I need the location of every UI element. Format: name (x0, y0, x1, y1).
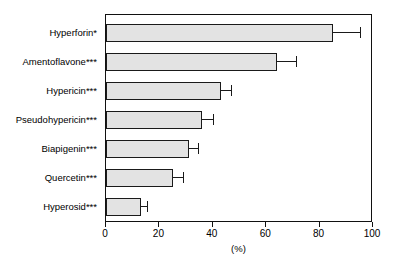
bar-row (106, 24, 371, 42)
error-cap-hyperosid (147, 201, 148, 212)
error-cap-pseudohypericin (213, 114, 214, 125)
bar-hypericin (106, 82, 221, 100)
error-bar-biapigenin (189, 148, 198, 149)
category-label: Biapigenin*** (42, 144, 97, 154)
bar-pseudohypericin (106, 111, 202, 129)
error-bar-hyperosid (141, 206, 148, 207)
x-tick-label: 20 (153, 229, 164, 239)
category-axis-labels: Hyperforin* Amentoflavone*** Hypericin**… (0, 14, 101, 222)
x-axis: (%) 020406080100 (105, 222, 372, 266)
error-bar-quercetin (173, 177, 184, 178)
error-bar-pseudohypericin (202, 119, 213, 120)
x-tick-mark (319, 222, 320, 227)
bar-row (106, 169, 371, 187)
category-label: Hypericin*** (46, 86, 97, 96)
error-cap-biapigenin (198, 143, 199, 154)
x-tick-mark (158, 222, 159, 227)
category-label: Hyperforin* (49, 28, 97, 38)
bar-row (106, 198, 371, 216)
category-label: Pseudohypericin*** (16, 115, 97, 125)
x-tick-label: 100 (364, 229, 381, 239)
bar-row (106, 53, 371, 71)
bar-amentoflavone (106, 53, 277, 71)
category-label: Hyperosid*** (43, 202, 97, 212)
error-bar-hypericin (221, 90, 232, 91)
bar-biapigenin (106, 140, 189, 158)
category-label: Quercetin*** (45, 173, 97, 183)
error-cap-hypericin (231, 85, 232, 96)
category-label: Amentoflavone*** (23, 57, 97, 67)
bar-row (106, 111, 371, 129)
bar-row (106, 140, 371, 158)
error-cap-quercetin (183, 172, 184, 183)
plot-area (105, 14, 372, 222)
bar-hyperosid (106, 198, 141, 216)
error-cap-amentoflavone (296, 56, 297, 67)
bar-quercetin (106, 169, 173, 187)
error-bar-amentoflavone (277, 61, 296, 62)
x-tick-mark (212, 222, 213, 227)
x-tick-mark (372, 222, 373, 227)
bar-row (106, 82, 371, 100)
x-tick-label: 0 (102, 229, 108, 239)
x-tick-mark (265, 222, 266, 227)
error-cap-hyperforin (360, 27, 361, 38)
x-tick-mark (105, 222, 106, 227)
error-bar-hyperforin (333, 32, 360, 33)
x-tick-label: 80 (313, 229, 324, 239)
bar-chart: Hyperforin* Amentoflavone*** Hypericin**… (0, 0, 396, 272)
bar-hyperforin (106, 24, 333, 42)
x-axis-title: (%) (231, 244, 246, 254)
x-tick-label: 60 (260, 229, 271, 239)
x-tick-label: 40 (206, 229, 217, 239)
